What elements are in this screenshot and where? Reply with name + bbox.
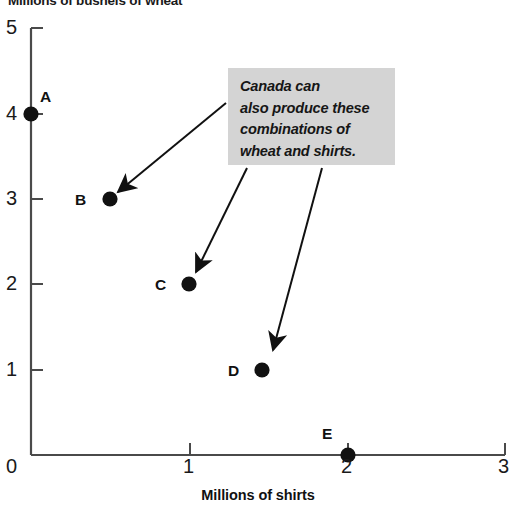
annotation-callout: Canada can also produce these combinatio… [228, 68, 395, 165]
x-tick-label-3: 3 [498, 455, 509, 478]
point-label-a: A [40, 88, 51, 106]
y-tick-label-3: 3 [6, 187, 17, 210]
annotation-line-3: combinations of [240, 119, 385, 141]
annotation-arrow-to-b [118, 103, 226, 192]
annotation-arrow-to-c [196, 168, 247, 272]
annotation-line-4: wheat and shirts. [240, 141, 385, 163]
point-label-b: B [75, 191, 86, 209]
y-tick-label-2: 2 [6, 272, 17, 295]
y-tick-label-1: 1 [6, 358, 17, 381]
y-tick-label-4: 4 [6, 102, 17, 125]
x-tick-label-2: 2 [341, 455, 352, 478]
annotation-arrow-to-d [273, 168, 322, 350]
data-point-c[interactable] [181, 276, 196, 291]
y-tick-label-0: 0 [6, 455, 17, 478]
data-point-d[interactable] [254, 362, 269, 377]
point-label-e: E [322, 425, 332, 443]
chart-figure: Millions of bushels of wheat [0, 0, 516, 516]
x-axis-title: Millions of shirts [0, 487, 516, 503]
point-label-d: D [228, 362, 239, 380]
point-label-c: C [155, 276, 166, 294]
data-point-b[interactable] [102, 191, 117, 206]
annotation-line-2: also produce these [240, 98, 385, 120]
data-point-a[interactable] [23, 106, 38, 121]
x-tick-label-1: 1 [183, 455, 194, 478]
y-tick-label-5: 5 [6, 16, 17, 39]
annotation-line-1: Canada can [240, 76, 385, 98]
